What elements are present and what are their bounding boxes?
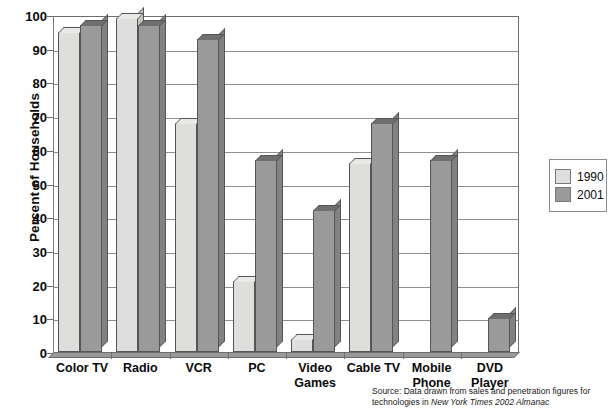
bar-side bbox=[160, 14, 166, 347]
bar-1990-vcr bbox=[175, 123, 197, 352]
x-axis-tick-mark bbox=[170, 353, 171, 359]
bar-face bbox=[138, 25, 160, 352]
y-axis-tick-label: 0 bbox=[7, 346, 47, 361]
bar-2001-radio bbox=[138, 25, 160, 352]
bar-side bbox=[102, 14, 108, 347]
bar-2001-cable-tv bbox=[371, 123, 393, 352]
y-axis-tick-label: 100 bbox=[7, 9, 47, 24]
bar-face bbox=[58, 32, 80, 352]
y-axis-tick-label: 30 bbox=[7, 244, 47, 259]
bar-side bbox=[452, 149, 458, 347]
x-axis-tick-mark bbox=[111, 353, 112, 359]
y-axis-tick-label: 80 bbox=[7, 76, 47, 91]
y-axis-tick-label: 60 bbox=[7, 143, 47, 158]
x-axis-tick-label: Color TV bbox=[53, 361, 111, 376]
bar-face bbox=[430, 160, 452, 352]
bar-side bbox=[277, 149, 283, 347]
legend-swatch-2001 bbox=[555, 187, 571, 202]
bar-2001-color-tv bbox=[80, 25, 102, 352]
y-axis-tick-label: 40 bbox=[7, 211, 47, 226]
y-axis-tick-label: 90 bbox=[7, 42, 47, 57]
y-axis-tick-label: 50 bbox=[7, 177, 47, 192]
legend-item-1990: 1990 bbox=[555, 169, 601, 184]
x-axis-tick-mark bbox=[403, 353, 404, 359]
y-axis-tick-label: 10 bbox=[7, 312, 47, 327]
x-axis-tick-label: VCR bbox=[170, 361, 228, 376]
bar-face bbox=[371, 123, 393, 352]
bar-2001-dvd-player bbox=[488, 318, 510, 352]
y-axis-tick-label: 70 bbox=[7, 110, 47, 125]
bar-1990-pc bbox=[233, 281, 255, 352]
legend-item-2001: 2001 bbox=[555, 187, 601, 202]
bar-side bbox=[219, 28, 225, 347]
bar-face bbox=[116, 18, 138, 352]
x-axis-tick-label: Video Games bbox=[286, 361, 344, 391]
source-note-line-2: New York Times 2002 Almanac bbox=[431, 397, 549, 407]
bar-side bbox=[393, 112, 399, 347]
x-axis-tick-label: Cable TV bbox=[344, 361, 402, 376]
x-axis-tick-label: PC bbox=[228, 361, 286, 376]
legend-label-1990: 1990 bbox=[577, 170, 604, 184]
bar-face bbox=[488, 318, 510, 352]
bar-1990-radio bbox=[116, 18, 138, 352]
x-axis-tick-mark bbox=[228, 353, 229, 359]
bar-2001-mobile-phone bbox=[430, 160, 452, 352]
bar-face bbox=[291, 339, 313, 352]
bar-face bbox=[233, 281, 255, 352]
bar-face bbox=[349, 163, 371, 352]
bar-face bbox=[313, 210, 335, 352]
x-axis-tick-mark bbox=[344, 353, 345, 359]
x-axis-tick-mark bbox=[286, 353, 287, 359]
plot-area bbox=[53, 16, 519, 353]
bar-2001-video-games bbox=[313, 210, 335, 352]
legend: 1990 2001 bbox=[549, 159, 607, 212]
bar-1990-cable-tv bbox=[349, 163, 371, 352]
bar-2001-pc bbox=[255, 160, 277, 352]
source-note: Source: Data drawn from sales and penetr… bbox=[372, 386, 613, 408]
bar-face bbox=[197, 39, 219, 352]
bar-1990-video-games bbox=[291, 339, 313, 352]
chart-figure: Percent of Households 010203040506070809… bbox=[0, 0, 613, 414]
bar-face bbox=[255, 160, 277, 352]
bar-side bbox=[335, 199, 341, 347]
x-axis-tick-mark bbox=[461, 353, 462, 359]
x-axis-tick-label: Radio bbox=[111, 361, 169, 376]
plot-floor bbox=[48, 352, 520, 358]
legend-label-2001: 2001 bbox=[577, 188, 604, 202]
bar-face bbox=[175, 123, 197, 352]
legend-swatch-1990 bbox=[555, 169, 571, 184]
bar-face bbox=[80, 25, 102, 352]
bar-2001-vcr bbox=[197, 39, 219, 352]
bar-1990-color-tv bbox=[58, 32, 80, 352]
y-axis-tick-label: 20 bbox=[7, 278, 47, 293]
